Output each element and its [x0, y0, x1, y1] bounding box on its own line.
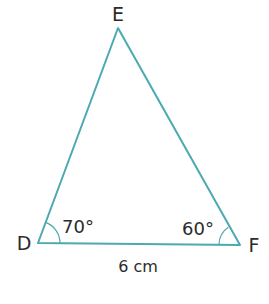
angle-label-f: 60°	[182, 218, 214, 239]
angle-arc-f	[219, 227, 228, 245]
vertex-label-f: F	[249, 234, 260, 256]
triangle-diagram: E D F 70° 60° 6 cm	[0, 0, 269, 304]
vertex-label-e: E	[112, 3, 124, 25]
triangle-def	[38, 28, 240, 245]
angle-arc-d	[46, 222, 60, 243]
vertex-label-d: D	[17, 232, 32, 254]
side-label-df: 6 cm	[118, 257, 158, 276]
angle-label-d: 70°	[62, 216, 94, 237]
